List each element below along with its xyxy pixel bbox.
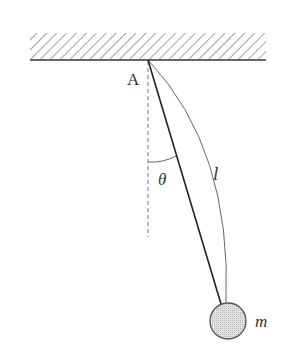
ceiling bbox=[30, 33, 266, 60]
mass-label: m bbox=[255, 312, 267, 331]
length-label: l bbox=[213, 163, 218, 184]
pivot-label: A bbox=[127, 70, 140, 89]
pendulum-bob bbox=[210, 303, 246, 339]
angle-label: θ bbox=[158, 170, 166, 189]
pendulum-diagram: A θ l m bbox=[0, 0, 299, 346]
angle-arc bbox=[148, 156, 176, 162]
ceiling-hatch bbox=[30, 33, 266, 59]
